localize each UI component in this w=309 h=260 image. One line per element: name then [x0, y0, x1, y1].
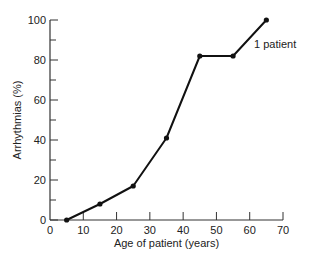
x-tick-label: 30: [144, 224, 156, 236]
y-axis-title: Arrhythmias (%): [11, 81, 23, 160]
data-point-marker: [97, 201, 102, 206]
x-tick-label: 0: [47, 224, 53, 236]
line-chart: 020406080100010203040506070 Age of patie…: [0, 0, 309, 260]
data-point-marker: [230, 53, 235, 58]
y-tick-label: 0: [40, 214, 46, 226]
axis-ticks: 020406080100010203040506070: [28, 14, 289, 236]
data-series: [64, 17, 269, 222]
data-point-marker: [164, 135, 169, 140]
series-line: [67, 20, 267, 220]
y-tick-label: 80: [34, 54, 46, 66]
x-tick-label: 60: [244, 224, 256, 236]
axes: [50, 20, 283, 220]
x-tick-label: 70: [277, 224, 289, 236]
annotation-label: 1 patient: [254, 38, 296, 50]
data-point-marker: [197, 53, 202, 58]
y-tick-label: 60: [34, 94, 46, 106]
x-tick-label: 20: [110, 224, 122, 236]
data-point-marker: [64, 217, 69, 222]
data-point-marker: [131, 183, 136, 188]
x-tick-label: 10: [77, 224, 89, 236]
y-tick-label: 40: [34, 134, 46, 146]
y-tick-label: 20: [34, 174, 46, 186]
x-tick-label: 40: [177, 224, 189, 236]
x-axis-title: Age of patient (years): [114, 237, 219, 249]
x-tick-label: 50: [210, 224, 222, 236]
y-tick-label: 100: [28, 14, 46, 26]
data-point-marker: [264, 17, 269, 22]
